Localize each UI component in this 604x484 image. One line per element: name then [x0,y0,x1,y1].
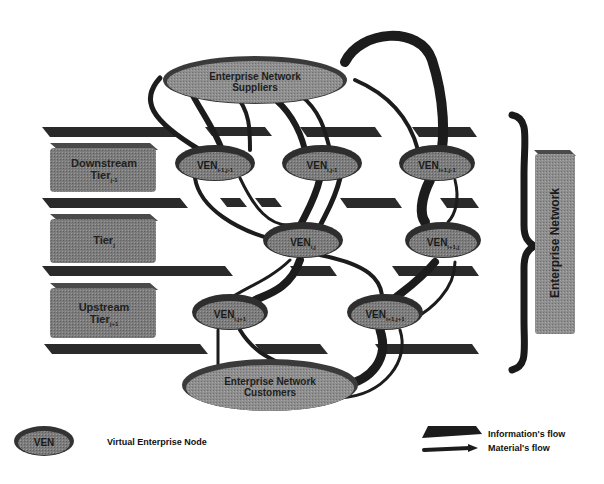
brace-icon [512,115,534,370]
suppliers-hub-line2: Suppliers [170,82,340,93]
ven-node: VENi+1,j [413,237,473,251]
tier-downstream: Downstream Tierj-1 [52,157,156,184]
info-flow-legend-icon [422,426,482,438]
ven-node-label: VEN [307,160,328,171]
legend-node-desc: Virtual Enterprise Node [107,437,207,447]
material-flow-legend-icon [424,448,470,450]
tier-upstream-sub: j+1 [110,321,119,327]
legend-node-icon-label: VEN [24,437,64,448]
ven-node-label: VEN [197,160,218,171]
enterprise-network-diagram: Enterprise Network Suppliers Enterprise … [0,0,604,484]
tier-upstream-label: Tier [90,313,110,325]
ven-node-sub: i-1,j-1 [217,167,233,173]
ven-node-label: VEN [427,237,448,248]
ven-node-sub: i+1,j [447,244,459,250]
ven-node-sub: i,j+1 [234,316,246,322]
ven-node: VENi+1,j-1 [407,160,467,174]
ven-node-label: VEN [290,237,311,248]
legend-info-flow: Information's flow [488,429,565,439]
ven-node-label: VEN [365,309,386,320]
tier-upstream: Upstream Tierj+1 [52,301,156,328]
ven-node-sub: i,j-1 [327,167,337,173]
tier-current-sub: j [113,242,115,248]
enterprise-network-side-label: Enterprise Network [548,183,562,303]
tier-current: Tierj [52,234,156,249]
ven-node: VENi+1,j+1 [355,309,415,323]
ven-node: VENi,j-1 [292,160,352,174]
ven-node: VENi-1,j-1 [185,160,245,174]
tier-current-label: Tier [93,234,113,246]
legend-material-flow: Material's flow [488,443,550,453]
tier-downstream-label: Tier [91,169,111,181]
ven-node: VENi,j [273,237,333,251]
tier-upstream-name: Upstream [52,301,156,313]
ven-node-sub: i+1,j+1 [386,316,405,322]
suppliers-hub-line1: Enterprise Network [170,71,340,82]
legend-graphics [14,426,482,456]
ven-node-label: VEN [214,309,235,320]
ven-node-sub: i,j [311,244,316,250]
ven-node: VENi,j+1 [200,309,260,323]
suppliers-hub: Enterprise Network Suppliers [170,71,340,93]
customers-hub-line1: Enterprise Network [185,376,355,387]
customers-hub: Enterprise Network Customers [185,376,355,398]
customers-hub-line2: Customers [185,387,355,398]
ven-node-label: VEN [418,160,439,171]
tier-downstream-sub: j-1 [110,177,117,183]
ven-node-sub: i+1,j-1 [439,167,456,173]
tier-downstream-name: Downstream [52,157,156,169]
